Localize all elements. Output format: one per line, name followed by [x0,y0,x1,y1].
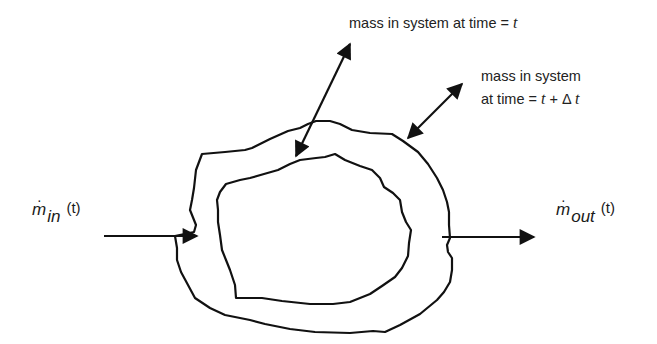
label-system-at-t-text: mass in system at time = [349,15,513,31]
time-variable: t [513,14,517,31]
label-line-1: mass in system [481,68,581,85]
label-system-at-t-plus-dt: mass in system at time = t + Δ t [481,68,581,108]
label-system-at-t: mass in system at time = t [349,14,517,32]
label-line-2-prefix: at time = [481,91,541,107]
dot-accent: · [561,192,566,208]
time-variable-2: t [575,90,579,107]
time-argument: (t) [601,199,615,216]
inner-boundary [217,154,411,304]
subscript-out: out [571,207,595,226]
arrow-to-inner-boundary [296,44,350,156]
mass-balance-diagram [0,0,657,344]
time-argument: (t) [66,199,80,216]
label-mass-flow-in: ·min(t) [32,200,81,220]
dot-accent: · [37,192,42,208]
plus-delta: + Δ [546,91,575,107]
arrow-to-outer-boundary [408,84,462,138]
outer-boundary [175,121,452,333]
subscript-in: in [47,207,60,226]
label-mass-flow-out: ·mout(t) [556,200,615,220]
